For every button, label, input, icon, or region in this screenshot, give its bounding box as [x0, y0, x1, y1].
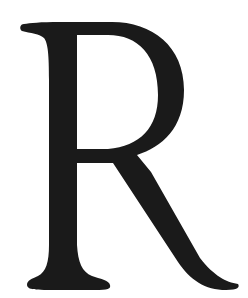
letter-r-glyph: R — [0, 0, 248, 298]
glyph-shape — [20, 22, 238, 290]
letter-r-icon — [0, 0, 248, 298]
